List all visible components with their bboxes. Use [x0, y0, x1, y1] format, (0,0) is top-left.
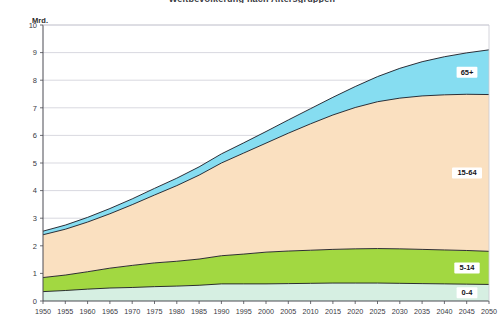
band-label-0-4: 0-4 [462, 288, 474, 297]
plot-area: 0123456789101950195519601965197019751980… [0, 0, 504, 324]
x-axis-tick-label: 1965 [102, 307, 118, 316]
x-axis-tick-label: 1950 [35, 307, 51, 316]
y-axis-tick-label: 1 [33, 269, 37, 278]
x-axis-tick-label: 1985 [191, 307, 207, 316]
x-axis-tick-label: 1960 [80, 307, 96, 316]
band-label-65plus: 65+ [461, 68, 474, 77]
y-axis-tick-label: 8 [33, 76, 37, 85]
y-axis-tick-label: 10 [29, 21, 37, 30]
x-axis-tick-label: 1970 [124, 307, 140, 316]
x-axis-tick-label: 2000 [258, 307, 274, 316]
x-axis-tick-label: 2025 [370, 307, 386, 316]
population-area-chart: Weltbevölkerung nach Altersgruppen Mrd. … [0, 0, 504, 324]
band-label-15-64: 15-64 [457, 168, 477, 177]
x-axis-tick-label: 1990 [213, 307, 229, 316]
x-axis-tick-label: 1980 [169, 307, 185, 316]
y-axis-tick-label: 2 [33, 242, 37, 251]
y-axis-tick-label: 3 [33, 214, 37, 223]
x-axis-tick-label: 2030 [392, 307, 408, 316]
x-axis-tick-label: 2005 [280, 307, 296, 316]
x-axis-tick-label: 2040 [436, 307, 452, 316]
x-axis-tick-label: 1995 [236, 307, 252, 316]
x-axis-tick-label: 1975 [147, 307, 163, 316]
x-axis-tick-label: 2015 [325, 307, 341, 316]
x-axis-tick-label: 2035 [414, 307, 430, 316]
y-axis-tick-label: 9 [33, 48, 37, 57]
band-label-5-14: 5-14 [459, 263, 475, 272]
y-axis-tick-label: 6 [33, 131, 37, 140]
y-axis-tick-label: 0 [33, 297, 37, 306]
x-axis-tick-label: 2020 [347, 307, 363, 316]
y-axis-tick-label: 4 [33, 186, 37, 195]
x-axis-tick-label: 2050 [481, 307, 497, 316]
x-axis-tick-label: 2045 [459, 307, 475, 316]
y-axis-tick-label: 7 [33, 104, 37, 113]
x-axis-tick-label: 1955 [57, 307, 73, 316]
x-axis-tick-label: 2010 [303, 307, 319, 316]
y-axis-tick-label: 5 [33, 159, 37, 168]
